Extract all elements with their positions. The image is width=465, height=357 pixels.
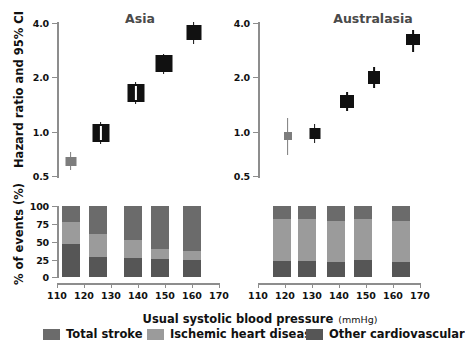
bar-segment — [273, 219, 291, 262]
x-axis-caption-units: (mmHg) — [338, 314, 377, 325]
legend-item-other-cardiovascular: Other cardiovascular — [306, 327, 465, 341]
bar-segment — [124, 240, 142, 258]
point-box — [284, 132, 292, 140]
x-tick — [84, 283, 85, 288]
bar-segment — [354, 260, 372, 277]
x-tick-label: 170 — [406, 290, 434, 301]
y-axis-line-asia — [57, 22, 59, 178]
y-tick-label-ev-0: 0 — [22, 272, 49, 283]
y-tick-ev-25 — [52, 260, 57, 261]
y-axis-line-australasia — [258, 22, 260, 178]
legend-label-other-cardiovascular: Other cardiovascular — [329, 327, 465, 341]
point-box — [368, 71, 380, 84]
legend-swatch-ischemic-heart-disease — [147, 329, 164, 340]
bar-segment — [124, 206, 142, 240]
x-tick-label: 170 — [205, 290, 233, 301]
x-tick — [192, 283, 193, 288]
y-tick-label-ev-100: 100 — [22, 201, 49, 212]
stacked-bar — [89, 206, 107, 277]
stacked-bar — [124, 206, 142, 277]
bar-segment — [124, 258, 142, 277]
y-tick-label-ev-25: 25 — [22, 255, 49, 266]
x-tick — [138, 283, 139, 288]
point-box — [309, 128, 320, 139]
legend-swatch-other-cardiovascular — [306, 329, 323, 340]
x-tick — [219, 283, 220, 288]
data-point-aus-2 — [309, 124, 320, 143]
y-tick-asia-05 — [52, 176, 57, 177]
legend: Total stroke Ischemic heart disease Othe… — [0, 325, 450, 345]
bar-segment — [89, 234, 107, 257]
bar-segment — [151, 259, 169, 277]
y-axis-caption-events: % of events (%) — [12, 183, 26, 285]
y-tick-ev-0 — [52, 277, 57, 278]
legend-item-ischemic-heart-disease: Ischemic heart disease — [147, 327, 319, 341]
bar-segment — [327, 221, 345, 262]
x-axis-caption-text: Usual systolic blood pressure — [143, 312, 334, 326]
data-point-asia-2 — [92, 122, 109, 144]
stacked-bar — [183, 206, 201, 277]
y-tick-label-ev-50: 50 — [22, 237, 49, 248]
x-tick-label: 160 — [178, 290, 206, 301]
bar-segment — [354, 219, 372, 259]
legend-item-total-stroke: Total stroke — [43, 327, 142, 341]
y-tick-label-aus-1: 1.0 — [217, 127, 250, 138]
x-tick — [165, 283, 166, 288]
bar-segment — [298, 261, 316, 277]
x-tick-label: 110 — [43, 290, 71, 301]
y-tick-ev-100 — [52, 206, 57, 207]
point-box — [155, 55, 172, 72]
bar-segment — [62, 206, 80, 222]
x-tick — [420, 283, 421, 288]
stacked-bar — [298, 206, 316, 277]
x-tick-label: 120 — [70, 290, 98, 301]
bar-segment — [392, 206, 410, 221]
data-point-asia-5 — [186, 22, 201, 44]
y-tick-asia-1 — [52, 132, 57, 133]
x-tick — [111, 283, 112, 288]
bar-segment — [89, 206, 107, 234]
stacked-bar — [354, 206, 372, 277]
y-tick-aus-1 — [253, 132, 258, 133]
x-tick-label: 150 — [151, 290, 179, 301]
point-inner-line — [134, 86, 136, 100]
y-tick-aus-4 — [253, 23, 258, 24]
data-point-aus-1 — [283, 118, 292, 155]
x-tick — [57, 283, 58, 288]
bar-segment — [183, 260, 201, 277]
bar-segment — [392, 262, 410, 277]
bar-segment — [151, 206, 169, 249]
y-axis-caption-hazard: Hazard ratio and 95% CI — [12, 11, 26, 168]
point-box — [186, 25, 201, 40]
x-tick-label: 130 — [298, 290, 326, 301]
y-tick-aus-05 — [253, 176, 258, 177]
bar-segment — [327, 262, 345, 277]
stacked-bar — [62, 206, 80, 277]
stacked-bar — [273, 206, 291, 277]
point-box — [406, 34, 420, 45]
y-tick-ev-75 — [52, 224, 57, 225]
legend-label-total-stroke: Total stroke — [66, 327, 142, 341]
x-tick — [285, 283, 286, 288]
point-box — [65, 157, 76, 166]
y-tick-label-aus-4: 4.0 — [217, 18, 250, 29]
data-point-aus-3 — [340, 92, 354, 111]
bar-segment — [89, 257, 107, 277]
stacked-bar — [327, 206, 345, 277]
bar-segment — [354, 206, 372, 219]
y-axis-line-events-left — [57, 206, 59, 278]
x-tick-label: 160 — [379, 290, 407, 301]
stacked-bar — [151, 206, 169, 277]
y-tick-asia-2 — [52, 77, 57, 78]
bar-segment — [298, 206, 316, 219]
bar-segment — [183, 251, 201, 260]
x-tick — [258, 283, 259, 288]
x-tick-label: 130 — [97, 290, 125, 301]
x-tick — [312, 283, 313, 288]
bar-segment — [298, 219, 316, 261]
x-tick-label: 140 — [325, 290, 353, 301]
data-point-asia-1 — [64, 152, 77, 170]
data-point-asia-4 — [155, 54, 172, 74]
bar-segment — [327, 206, 345, 221]
